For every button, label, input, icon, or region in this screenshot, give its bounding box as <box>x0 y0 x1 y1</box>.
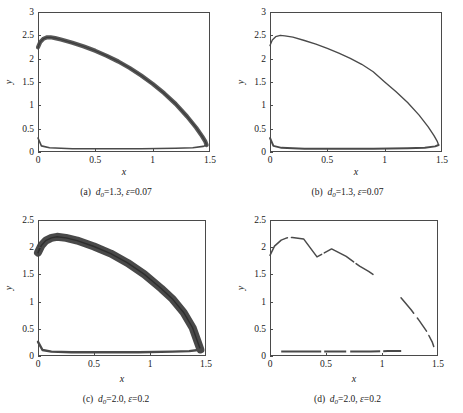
panel-a-ytick-2 <box>38 105 41 106</box>
panel-b-param2-value: 0.07 <box>367 187 384 197</box>
panel-d-xtick-label-0: 0 <box>268 359 273 369</box>
panel-c-ytick-1 <box>38 329 41 330</box>
panel-a-caption-index: (a) <box>80 187 91 197</box>
panel-c-plot-area: 0 0.5 1 1.5 2 2.5 0 0.5 1 1.5 <box>38 220 206 356</box>
panel-a-ytick-label-4: 2 <box>29 54 34 64</box>
panel-c-xtick-2 <box>150 353 151 356</box>
panel-c-param1-sub: 0 <box>103 398 107 406</box>
panel-b-ytick-3 <box>270 82 273 83</box>
panel-c-ytick-3 <box>38 274 41 275</box>
panel-a-xtick-1 <box>95 149 96 152</box>
panel-b-ytick-label-2: 1 <box>261 100 266 110</box>
panel-b-xtick-0 <box>270 149 271 152</box>
panel-c-ytick-label-5: 2.5 <box>22 215 34 225</box>
panel-c-xaxis-label: x <box>120 373 124 384</box>
panel-c-caption: (c) d0=2.0, ε=0.2 <box>0 394 232 406</box>
panel-d-param1-value: 2.0 <box>343 394 355 404</box>
panel-a-ytick-label-2: 1 <box>29 100 34 110</box>
panel-a-ytick-label-0: 0 <box>29 147 34 157</box>
panel-d-caption-index: (d) <box>314 394 325 404</box>
panel-d-ytick-4 <box>270 247 273 248</box>
panel-d-param2-name: ε <box>360 394 364 404</box>
panel-d-xtick-label-3: 1.5 <box>432 359 444 369</box>
panel-c-param2-value: 0.2 <box>137 394 149 404</box>
panel-c-param1-value: 2.0 <box>112 394 124 404</box>
panel-b-ytick-label-1: 0.5 <box>254 124 266 134</box>
panel-a-ytick-label-5: 2.5 <box>22 30 34 40</box>
panel-a-xaxis-label: x <box>122 166 126 177</box>
panel-d-xtick-label-2: 1 <box>380 359 385 369</box>
panel-d-curves <box>270 220 438 356</box>
panel-d-ytick-2 <box>270 302 273 303</box>
panel-b-xaxis-label: x <box>354 166 358 177</box>
panel-d-ytick-3 <box>270 274 273 275</box>
panel-a-param1-sub: 0 <box>100 191 104 199</box>
panel-a-yaxis-label: y <box>3 80 14 84</box>
panel-b-ytick-label-3: 1.5 <box>254 77 266 87</box>
panel-d-plot-area: 0 0.5 1 1.5 2 2.5 0 0.5 1 1.5 <box>270 220 438 356</box>
panel-b-ytick-label-0: 0 <box>261 147 266 157</box>
panel-c-yaxis-label: y <box>3 286 14 290</box>
panel-c-caption-index: (c) <box>83 394 94 404</box>
panel-b-xtick-2 <box>385 149 386 152</box>
panel-a-ytick-1 <box>38 129 41 130</box>
panel-b-curves <box>270 12 442 152</box>
panel-a-curves <box>38 12 210 152</box>
panel-c-ytick-0 <box>38 356 41 357</box>
panel-b-yaxis-label: y <box>235 80 246 84</box>
panel-a-param1-value: 1.3 <box>109 187 121 197</box>
panel-b-plot-area: 0 0.5 1 1.5 2 2.5 3 0 0.5 1 1.5 <box>270 12 442 152</box>
panel-c-xtick-0 <box>38 353 39 356</box>
panel-d-ytick-1 <box>270 329 273 330</box>
panel-a-plot-area: 0 0.5 1 1.5 2 2.5 3 0 0.5 1 1.5 <box>38 12 210 152</box>
panel-d-ytick-label-5: 2.5 <box>254 215 266 225</box>
panel-c-xtick-label-3: 1.5 <box>200 359 212 369</box>
panel-a-param2-value: 0.07 <box>135 187 152 197</box>
panel-d-caption: (d) d0=2.0, ε=0.2 <box>232 394 463 406</box>
panel-a-ytick-label-6: 3 <box>29 7 34 17</box>
panel-c-xtick-label-1: 0.5 <box>88 359 100 369</box>
panel-c-ytick-label-1: 0.5 <box>22 324 34 334</box>
panel-c-xtick-label-0: 0 <box>36 359 41 369</box>
panel-b-xtick-1 <box>327 149 328 152</box>
panel-d-ytick-label-0: 0 <box>261 351 266 361</box>
panel-c-ytick-2 <box>38 302 41 303</box>
panel-a-xtick-label-1: 0.5 <box>89 155 101 165</box>
panel-d-param1-sub: 0 <box>335 398 339 406</box>
panel-b: 0 0.5 1 1.5 2 2.5 3 0 0.5 1 1.5 x y (b) … <box>232 0 463 205</box>
panel-a-ytick-label-1: 0.5 <box>22 124 34 134</box>
panel-b-caption-index: (b) <box>312 187 323 197</box>
panel-d-ytick-label-2: 1 <box>261 297 266 307</box>
panel-b-xtick-label-2: 1 <box>382 155 387 165</box>
panel-b-ytick-4 <box>270 59 273 60</box>
panel-a-xtick-0 <box>38 149 39 152</box>
panel-c-ytick-label-4: 2 <box>29 242 34 252</box>
panel-a-ytick-5 <box>38 35 41 36</box>
panel-c-ytick-4 <box>38 247 41 248</box>
panel-b-ytick-label-5: 2.5 <box>254 30 266 40</box>
panel-d-ytick-label-4: 2 <box>261 242 266 252</box>
panel-a-caption: (a) d0=1.3, ε=0.07 <box>0 187 232 199</box>
panel-d-ytick-label-3: 1.5 <box>254 269 266 279</box>
panel-c-ytick-label-2: 1 <box>29 297 34 307</box>
panel-c-ytick-label-0: 0 <box>29 351 34 361</box>
panel-a-xtick-label-2: 1 <box>150 155 155 165</box>
panel-b-ytick-0 <box>270 152 273 153</box>
panel-b-ytick-5 <box>270 35 273 36</box>
panel-c-param2-name: ε <box>128 394 132 404</box>
panel-a: 0 0.5 1 1.5 2 2.5 3 0 0.5 1 1.5 x y (a) … <box>0 0 232 205</box>
panel-b-ytick-label-4: 2 <box>261 54 266 64</box>
panel-c-xtick-label-2: 1 <box>148 359 153 369</box>
panel-b-ytick-2 <box>270 105 273 106</box>
panel-a-ytick-label-3: 1.5 <box>22 77 34 87</box>
panel-a-xtick-2 <box>153 149 154 152</box>
panel-b-xtick-label-1: 0.5 <box>321 155 333 165</box>
panel-b-xtick-label-3: 1.5 <box>436 155 448 165</box>
panel-b-param2-name: ε <box>358 187 362 197</box>
panel-d-xtick-label-1: 0.5 <box>320 359 332 369</box>
panel-b-ytick-label-6: 3 <box>261 7 266 17</box>
panel-d-xaxis-label: x <box>352 373 356 384</box>
panel-c-ytick-label-3: 1.5 <box>22 269 34 279</box>
panel-d-xtick-1 <box>326 353 327 356</box>
panel-a-ytick-4 <box>38 59 41 60</box>
